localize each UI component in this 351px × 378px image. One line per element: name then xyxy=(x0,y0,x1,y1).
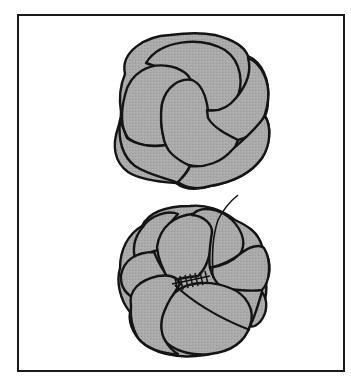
bottom-rosette xyxy=(118,195,269,356)
top-rosette xyxy=(115,33,269,189)
rosette-illustration xyxy=(0,0,351,378)
